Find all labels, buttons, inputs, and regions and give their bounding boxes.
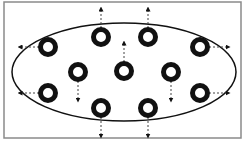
particle-ring [41,86,56,101]
particle-ring [141,30,156,45]
particle-ring [117,64,132,79]
particle-ring [193,40,208,55]
particle-ring [41,40,56,55]
particle-ring [164,65,179,80]
particle-diagram [0,0,245,142]
particle-ring [94,30,109,45]
particle-ring [141,101,156,116]
particle-ring [193,86,208,101]
particle-ring [71,65,86,80]
particle-group [41,30,208,116]
particle-ring [94,101,109,116]
